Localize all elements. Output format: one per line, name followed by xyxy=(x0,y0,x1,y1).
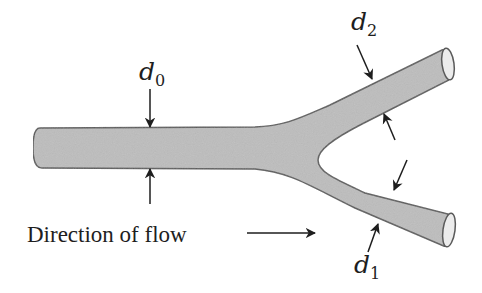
d0-label: d0 xyxy=(139,57,165,90)
d1-label: d1 xyxy=(354,250,380,283)
d2-label: d2 xyxy=(351,7,377,40)
bifurcation-diagram: d0 d2 d1 Direction of flow xyxy=(0,0,482,293)
pipe-body xyxy=(33,49,449,247)
flow-direction-caption: Direction of flow xyxy=(27,222,187,247)
